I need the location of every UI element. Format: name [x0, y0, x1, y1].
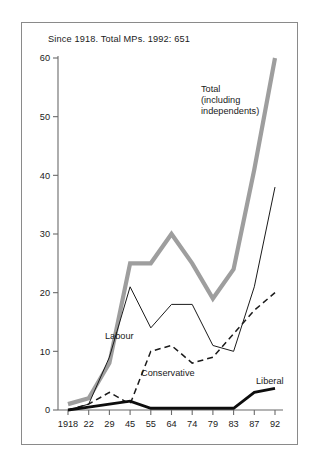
- x-tick-label: 55: [146, 419, 156, 429]
- x-tick-label: 74: [187, 419, 197, 429]
- series-label-total: Total (including independents): [201, 84, 259, 117]
- x-tick-label: 1918: [58, 419, 78, 429]
- series-label-total-line2: (including: [201, 95, 259, 106]
- series-label-conservative: Conservative: [141, 368, 195, 379]
- series-line-conservative: [68, 293, 275, 410]
- y-tick-label: 30: [40, 229, 50, 239]
- y-tick-label: 20: [40, 288, 50, 298]
- x-tick-label: 92: [270, 419, 280, 429]
- y-tick-label: 10: [40, 347, 50, 357]
- x-tick-label: 45: [125, 419, 135, 429]
- series-line-liberal: [68, 388, 275, 410]
- x-tick-label: 29: [104, 419, 114, 429]
- x-tick-label: 79: [208, 419, 218, 429]
- series-label-total-line1: Total: [201, 84, 259, 95]
- x-tick-label: 83: [228, 419, 238, 429]
- figure-page: Since 1918. Total MPs. 1992: 651 0102030…: [0, 0, 321, 467]
- y-tick-label: 40: [40, 171, 50, 181]
- x-tick-label: 22: [84, 419, 94, 429]
- x-tick-label: 64: [166, 419, 176, 429]
- y-tick-label: 50: [40, 112, 50, 122]
- y-tick-label: 60: [40, 53, 50, 63]
- y-tick-label: 0: [45, 405, 50, 415]
- series-label-total-line3: independents): [201, 106, 259, 117]
- series-label-labour: Labour: [105, 331, 134, 342]
- series-label-liberal: Liberal: [256, 376, 284, 387]
- x-tick-label: 87: [249, 419, 259, 429]
